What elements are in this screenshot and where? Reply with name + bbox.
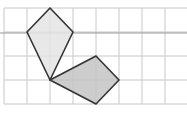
kite-shape <box>27 8 73 80</box>
geometry-diagram <box>0 0 187 116</box>
grid-canvas <box>0 0 187 116</box>
quadrilateral-shape <box>50 56 119 104</box>
